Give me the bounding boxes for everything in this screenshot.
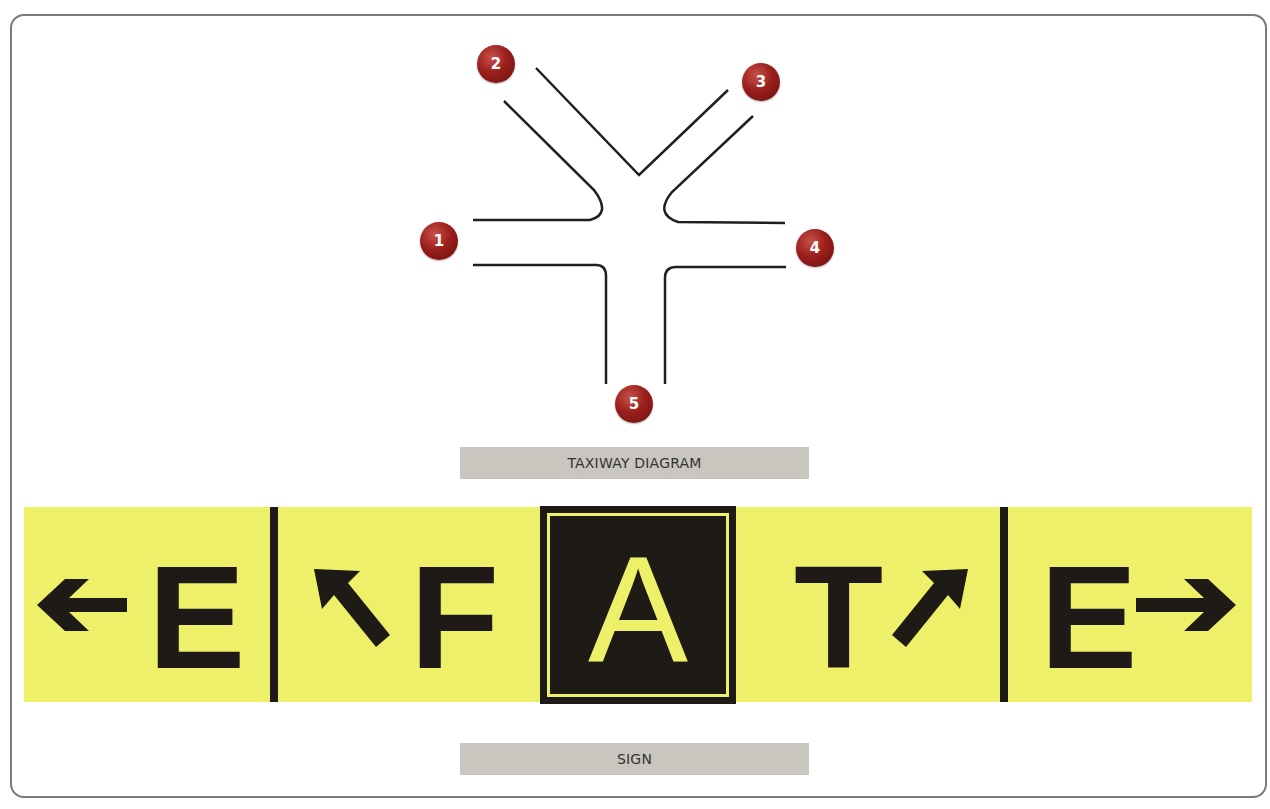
badge-1: 1 <box>420 222 458 260</box>
diagram-caption: TAXIWAY DIAGRAM <box>460 447 809 479</box>
sign-divider <box>1000 507 1008 702</box>
badge-label: 1 <box>434 232 444 250</box>
sign-letter-t: T <box>794 545 883 691</box>
badge-4: 4 <box>796 229 834 267</box>
sign-caption: SIGN <box>460 743 809 775</box>
location-sign-a: A <box>540 506 736 704</box>
up-right-arrow-icon <box>890 569 970 651</box>
badge-5: 5 <box>615 385 653 423</box>
badge-3: 3 <box>742 63 780 101</box>
sign-letter-f: F <box>410 545 499 691</box>
badge-label: 3 <box>756 73 766 91</box>
right-arrow-icon <box>1136 579 1236 631</box>
sign-letter-e-right: E <box>1040 545 1137 691</box>
sign-letter-e-left: E <box>148 545 245 691</box>
taxiway-lines <box>0 0 1270 440</box>
badge-label: 5 <box>629 395 639 413</box>
badge-label: 4 <box>810 239 820 257</box>
left-arrow-icon <box>37 579 127 631</box>
badge-2: 2 <box>477 45 515 83</box>
badge-label: 2 <box>491 55 501 73</box>
up-left-arrow-icon <box>314 569 394 651</box>
location-sign-border: A <box>547 513 729 697</box>
sign-divider <box>270 507 278 702</box>
taxiway-diagram: 1 2 3 4 5 <box>0 0 1270 440</box>
location-letter: A <box>588 534 688 684</box>
